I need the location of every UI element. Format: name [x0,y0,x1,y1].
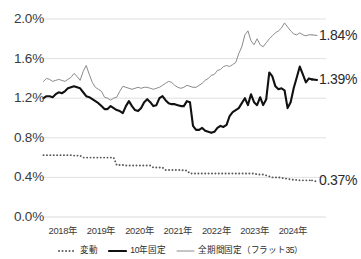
callout-connector [312,35,317,36]
y-axis-tick-label: 1.2% [0,91,44,105]
series-line-full-term-fixed-flat35 [44,23,313,100]
legend-swatch-icon [108,241,127,259]
legend-item-full-term-fixed-flat35[interactable]: 全期間固定（フラット35） [176,241,303,259]
legend-item-hendou-variable[interactable]: 変動 [58,241,97,259]
callout-connector [312,79,317,80]
y-axis-tick-label: 1.6% [0,52,44,66]
y-axis-tick-label: 0.0% [0,210,44,224]
series-layer [44,23,318,182]
legend-label: 10年固定 [130,245,165,255]
end-value-label-hendou-variable: 0.37% [319,173,357,187]
legend-item-ten-year-fixed[interactable]: 10年固定 [108,241,165,259]
y-axis-tick-label: 2.0% [0,12,44,26]
x-axis-tick-label: 2023年 [233,225,275,236]
legend-label: 変動 [80,245,97,255]
callout-connector [312,180,317,181]
series-line-hendou-variable [44,155,313,180]
end-value-label-ten-year-fixed: 1.39% [319,72,357,86]
legend-swatch-icon [176,241,195,259]
plot-area [0,0,361,232]
chart-svg [0,0,361,232]
gridlines [42,19,326,217]
y-axis-tick-label: 0.4% [0,170,44,184]
end-value-label-full-term-fixed-flat35: 1.84% [319,28,357,42]
legend-label: 全期間固定（フラット35） [198,245,303,255]
x-axis-tick-label: 2021年 [157,225,199,236]
y-axis-tick-label: 0.8% [0,131,44,145]
x-axis: 2018年2019年2020年2021年2022年2023年2024年 [42,225,342,239]
legend-swatch-icon [58,241,77,259]
chart-legend: 変動10年固定全期間固定（フラット35） [0,243,361,257]
x-axis-tick-label: 2018年 [42,225,84,236]
x-axis-tick-label: 2022年 [195,225,237,236]
chart-container: 2.0%1.6%1.2%0.8%0.4%0.0% 2018年2019年2020年… [0,0,361,259]
series-line-ten-year-fixed [44,67,313,133]
x-axis-tick-label: 2020年 [118,225,160,236]
x-axis-tick-label: 2024年 [272,225,314,236]
x-axis-tick-label: 2019年 [80,225,122,236]
